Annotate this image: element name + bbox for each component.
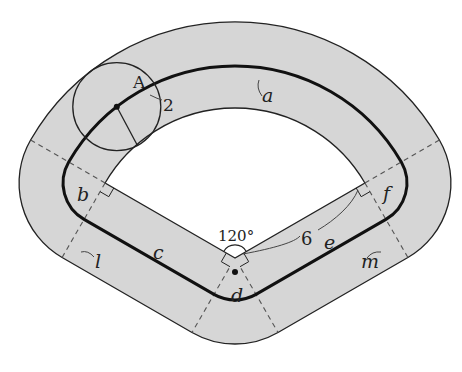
label-b: b	[77, 183, 89, 205]
point-A-dot	[114, 104, 120, 110]
label-a: a	[262, 84, 273, 106]
center-dot	[232, 269, 238, 275]
label-6: 6	[301, 228, 312, 249]
label-A: A	[132, 72, 146, 92]
label-radius-2: 2	[163, 95, 174, 115]
label-m: m	[361, 250, 379, 272]
angle-120-arc	[224, 245, 247, 252]
label-d: d	[231, 284, 243, 306]
label-c: c	[153, 241, 164, 263]
label-e: e	[324, 231, 335, 253]
label-l: l	[95, 250, 101, 272]
track-diagram: A 2 120° 6 a b c d e f l m	[0, 0, 462, 372]
label-angle-120: 120°	[218, 227, 254, 245]
